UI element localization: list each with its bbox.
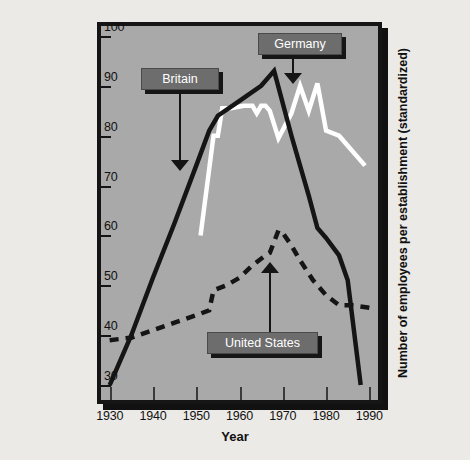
y-tick-label-100: 100: [104, 20, 124, 34]
chart-figure: 10090807060504030 1930194019501960197019…: [0, 0, 470, 460]
callout-britain: Britain: [141, 68, 219, 90]
callout-britain-leader: [179, 90, 181, 162]
y-tick-label-70: 70: [104, 170, 118, 184]
x-tick-1940: [153, 387, 155, 400]
y-tick-label-90: 90: [104, 70, 118, 84]
y-tick-50: [97, 285, 111, 287]
y-axis-title: Number of employees per establishment (s…: [392, 22, 414, 404]
callout-united-states-arrow-icon: [261, 262, 279, 273]
callout-germany-leader: [292, 55, 294, 75]
x-tick-1990: [369, 387, 371, 400]
callout-germany: Germany: [258, 33, 342, 55]
callout-germany-label: Germany: [258, 33, 342, 55]
y-tick-40: [97, 335, 111, 337]
y-tick-label-80: 80: [104, 120, 118, 134]
callout-united-states-leader: [269, 272, 271, 332]
x-tick-label-1930: 1930: [96, 409, 123, 423]
x-tick-1970: [283, 387, 285, 400]
x-tick-1960: [240, 387, 242, 400]
x-tick-label-1970: 1970: [269, 409, 296, 423]
y-tick-label-60: 60: [104, 219, 118, 233]
x-tick-label-1940: 1940: [139, 409, 166, 423]
y-tick-80: [97, 136, 111, 138]
callout-united-states: United States: [207, 332, 318, 354]
x-tick-label-1980: 1980: [313, 409, 340, 423]
x-tick-label-1960: 1960: [226, 409, 253, 423]
callout-united-states-label: United States: [207, 332, 318, 354]
y-axis-title-text: Number of employees per establishment (s…: [396, 48, 410, 378]
x-tick-label-1990: 1990: [356, 409, 383, 423]
callout-britain-label: Britain: [141, 68, 219, 90]
x-tick-1930: [110, 387, 112, 400]
x-tick-label-1950: 1950: [183, 409, 210, 423]
callout-germany-arrow-icon: [284, 73, 302, 84]
y-tick-90: [97, 86, 111, 88]
x-axis-title: Year: [0, 429, 470, 444]
y-tick-70: [97, 186, 111, 188]
y-tick-60: [97, 235, 111, 237]
x-tick-1950: [196, 387, 198, 400]
y-tick-label-30: 30: [104, 369, 118, 383]
y-tick-label-40: 40: [104, 319, 118, 333]
y-tick-100: [97, 36, 111, 38]
callout-britain-arrow-icon: [171, 160, 189, 171]
x-tick-1980: [326, 387, 328, 400]
y-tick-label-50: 50: [104, 269, 118, 283]
